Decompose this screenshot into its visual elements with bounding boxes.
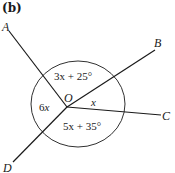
center-label-o: O [64,92,73,104]
angle-aob-rest: + 25° [65,70,92,82]
figure-label: (b) [2,1,22,15]
angle-aob-var: 3x [54,70,65,82]
point-label-c: C [162,110,170,122]
ray-od [13,107,67,162]
point-label-d: D [3,162,12,173]
angle-aod-var: x [45,101,50,113]
angle-aob-label: 3x + 25° [54,70,92,82]
point-label-b: B [154,37,161,49]
angle-boc-label: x [91,96,96,108]
ray-oa [9,31,67,107]
angle-diagram: (b) A B C D O 3x + 25° 6x x 5x + 35° [0,0,175,173]
angle-boc-var: x [91,96,96,108]
angle-cod-rest: + 35° [74,120,101,132]
point-label-a: A [2,21,9,33]
diagram-lines [0,0,175,173]
angle-aod-label: 6x [39,101,49,113]
angle-cod-var: 5x [63,120,74,132]
ray-oc [67,107,161,115]
angle-cod-label: 5x + 35° [63,120,101,132]
